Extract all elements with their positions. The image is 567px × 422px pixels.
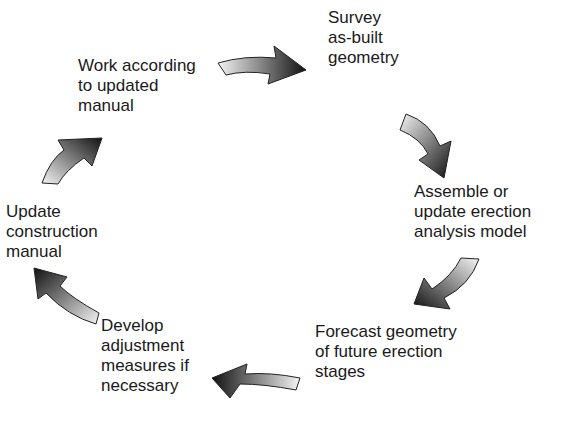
step-forecast: Forecast geometry of future erection sta… — [315, 322, 457, 382]
arrow-assemble-to-forecast — [414, 258, 479, 309]
arrow-develop-to-update — [34, 268, 99, 324]
arrow-update-to-work — [42, 138, 102, 184]
cycle-diagram: Survey as-built geometry Assemble or upd… — [0, 0, 567, 422]
arrow-forecast-to-develop — [212, 364, 300, 398]
step-develop: Develop adjustment measures if necessary — [101, 316, 189, 396]
step-assemble: Assemble or update erection analysis mod… — [414, 182, 531, 242]
step-work: Work according to updated manual — [78, 56, 196, 116]
arrow-survey-to-assemble — [400, 114, 451, 178]
step-update: Update construction manual — [6, 202, 98, 262]
step-survey: Survey as-built geometry — [328, 8, 399, 68]
arrow-work-to-survey — [218, 46, 306, 84]
